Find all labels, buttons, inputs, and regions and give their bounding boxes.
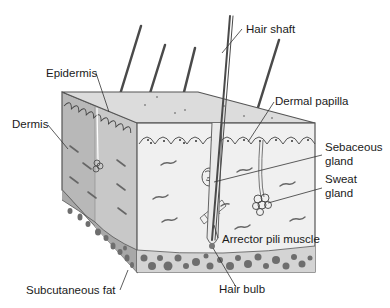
label-hair-bulb: Hair bulb bbox=[219, 283, 265, 296]
skin-block-illustration bbox=[0, 0, 390, 308]
label-sebaceous-gland-2: gland bbox=[325, 155, 353, 168]
label-sweat-gland-2: gland bbox=[325, 187, 353, 200]
left-face bbox=[62, 92, 137, 272]
label-sebaceous-gland-1: Sebaceous bbox=[325, 141, 383, 154]
label-subcutaneous-fat: Subcutaneous fat bbox=[26, 284, 116, 297]
label-arrector-pili-muscle: Arrector pili muscle bbox=[222, 233, 320, 246]
label-epidermis: Epidermis bbox=[46, 67, 97, 80]
label-sweat-gland-1: Sweat bbox=[325, 173, 357, 186]
label-dermis: Dermis bbox=[12, 118, 48, 131]
label-dermal-papilla: Dermal papilla bbox=[275, 95, 349, 108]
label-hair-shaft: Hair shaft bbox=[246, 23, 295, 36]
skin-diagram: Hair shaft Epidermis Dermal papilla Derm… bbox=[0, 0, 390, 308]
